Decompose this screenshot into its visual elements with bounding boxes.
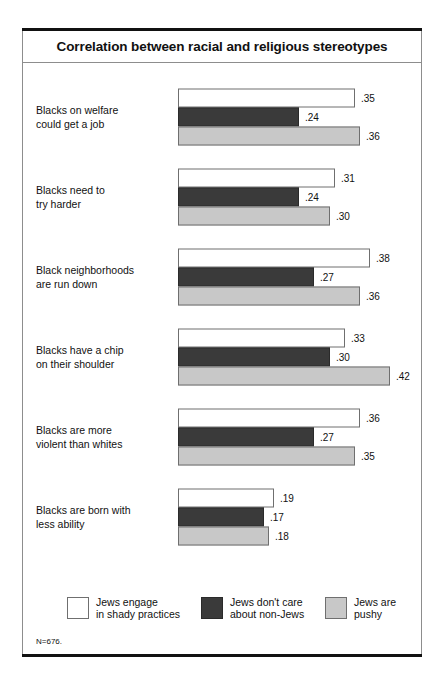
- sample-size-note: N=676.: [36, 637, 62, 646]
- bar-row: .24: [178, 188, 423, 207]
- bar-value-label: .33: [351, 333, 365, 344]
- legend-item[interactable]: Jews are pushy: [325, 596, 396, 621]
- bar-value-label: .30: [336, 352, 350, 363]
- bar-value-label: .19: [280, 493, 294, 504]
- bar-row: .35: [178, 447, 423, 466]
- bar-row: .31: [178, 169, 423, 188]
- bar[interactable]: [178, 169, 335, 188]
- bar[interactable]: [178, 89, 355, 108]
- bar-group: Black neighborhoodsare run down.38.27.36: [23, 237, 421, 317]
- legend-label: Jews engage in shady practices: [96, 596, 180, 621]
- legend-label: Jews don't care about non-Jews: [230, 596, 304, 621]
- category-label-line: could get a job: [36, 117, 176, 131]
- bar-stack: .31.24.30: [178, 169, 423, 226]
- bar-value-label: .17: [270, 512, 284, 523]
- category-label-line: are run down: [36, 277, 176, 291]
- category-label-line: try harder: [36, 197, 176, 211]
- legend-item[interactable]: Jews don't care about non-Jews: [201, 596, 304, 621]
- bar[interactable]: [178, 348, 330, 367]
- bar-row: .38: [178, 249, 423, 268]
- legend-swatch-shady-practices: [67, 597, 89, 619]
- bar-row: .36: [178, 127, 423, 146]
- bar[interactable]: [178, 527, 269, 546]
- bar-value-label: .35: [361, 93, 375, 104]
- bar-row: .42: [178, 367, 423, 386]
- bar-value-label: .42: [396, 371, 410, 382]
- category-label-line: Blacks have a chip: [36, 344, 176, 358]
- bar-row: .17: [178, 508, 423, 527]
- bar-group: Blacks are moreviolent than whites.36.27…: [23, 397, 421, 477]
- bar-row: .30: [178, 348, 423, 367]
- bar-value-label: .24: [305, 112, 319, 123]
- bar-row: .36: [178, 409, 423, 428]
- bar-value-label: .31: [341, 173, 355, 184]
- bar-row: .33: [178, 329, 423, 348]
- category-label: Black neighborhoodsare run down: [36, 264, 176, 291]
- bar-stack: .38.27.36: [178, 249, 423, 306]
- bar-row: .18: [178, 527, 423, 546]
- bar[interactable]: [178, 108, 299, 127]
- category-label-line: Blacks on welfare: [36, 104, 176, 118]
- category-label: Blacks on welfarecould get a job: [36, 104, 176, 131]
- legend-label: Jews are pushy: [354, 596, 396, 621]
- category-label-line: violent than whites: [36, 437, 176, 451]
- bar[interactable]: [178, 508, 264, 527]
- page-title: Correlation between racial and religious…: [57, 39, 388, 54]
- bar-group: Blacks need totry harder.31.24.30: [23, 157, 421, 237]
- bar[interactable]: [178, 367, 390, 386]
- chart-page: Correlation between racial and religious…: [0, 0, 444, 677]
- bar-value-label: .36: [366, 131, 380, 142]
- bar-row: .27: [178, 268, 423, 287]
- legend-item[interactable]: Jews engage in shady practices: [67, 596, 180, 621]
- category-label: Blacks have a chipon their shoulder: [36, 344, 176, 371]
- bar-value-label: .27: [320, 272, 334, 283]
- bar-stack: .36.27.35: [178, 409, 423, 466]
- bar-value-label: .18: [275, 531, 289, 542]
- bar-value-label: .30: [336, 211, 350, 222]
- bar-value-label: .35: [361, 451, 375, 462]
- figure-title-band: Correlation between racial and religious…: [23, 31, 421, 63]
- bar-group: Blacks are born withless ability.19.17.1…: [23, 477, 421, 557]
- bar[interactable]: [178, 489, 274, 508]
- bar-row: .27: [178, 428, 423, 447]
- bar[interactable]: [178, 268, 314, 287]
- bar[interactable]: [178, 447, 355, 466]
- category-label-line: Blacks are born with: [36, 504, 176, 518]
- bar-value-label: .24: [305, 192, 319, 203]
- bar-row: .30: [178, 207, 423, 226]
- chart-legend: Jews engage in shady practicesJews don't…: [23, 587, 421, 629]
- bar-value-label: .38: [376, 253, 390, 264]
- bar-group: Blacks have a chipon their shoulder.33.3…: [23, 317, 421, 397]
- bar-row: .19: [178, 489, 423, 508]
- legend-swatch-dont-care: [201, 597, 223, 619]
- category-label: Blacks are moreviolent than whites: [36, 424, 176, 451]
- bar-group: Blacks on welfarecould get a job.35.24.3…: [23, 77, 421, 157]
- bar-row: .36: [178, 287, 423, 306]
- bar-value-label: .36: [366, 291, 380, 302]
- bar-stack: .33.30.42: [178, 329, 423, 386]
- category-label-line: on their shoulder: [36, 357, 176, 371]
- bar[interactable]: [178, 207, 330, 226]
- bar-row: .24: [178, 108, 423, 127]
- bar[interactable]: [178, 428, 314, 447]
- bar-stack: .19.17.18: [178, 489, 423, 546]
- plot-area: Blacks on welfarecould get a job.35.24.3…: [23, 63, 421, 585]
- category-label-line: Blacks are more: [36, 424, 176, 438]
- bar[interactable]: [178, 409, 360, 428]
- bar[interactable]: [178, 329, 345, 348]
- bar-value-label: .36: [366, 413, 380, 424]
- bar[interactable]: [178, 127, 360, 146]
- bar[interactable]: [178, 287, 360, 306]
- category-label-line: less ability: [36, 517, 176, 531]
- category-label: Blacks need totry harder: [36, 184, 176, 211]
- bar[interactable]: [178, 188, 299, 207]
- bar-value-label: .27: [320, 432, 334, 443]
- figure-frame: Correlation between racial and religious…: [22, 30, 422, 655]
- bar-row: .35: [178, 89, 423, 108]
- bar-stack: .35.24.36: [178, 89, 423, 146]
- category-label-line: Blacks need to: [36, 184, 176, 198]
- legend-swatch-pushy: [325, 597, 347, 619]
- bar[interactable]: [178, 249, 370, 268]
- category-label-line: Black neighborhoods: [36, 264, 176, 278]
- category-label: Blacks are born withless ability: [36, 504, 176, 531]
